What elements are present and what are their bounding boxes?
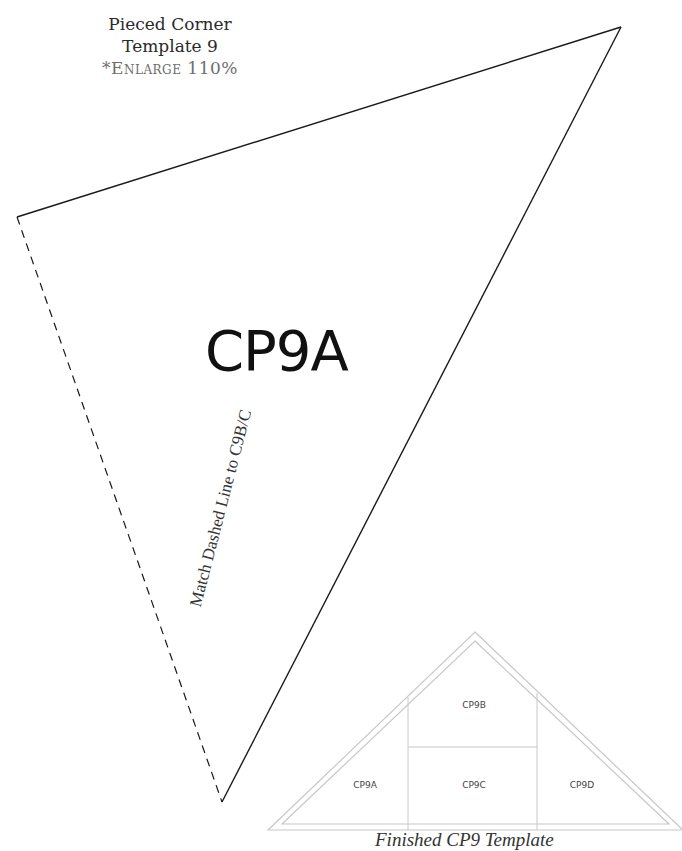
right-edge: [222, 27, 621, 802]
diagram-label-cp9a: CP9A: [353, 780, 377, 790]
top-edge: [17, 27, 621, 217]
diagram-inner-outline: [282, 641, 669, 824]
diagram-caption: Finished CP9 Template: [375, 829, 554, 851]
dashed-edge: [17, 217, 222, 802]
piece-label-cp9a: CP9A: [205, 318, 348, 383]
finished-diagram: [268, 632, 682, 830]
diagram-label-cp9d: CP9D: [570, 780, 594, 790]
diagram-label-cp9c: CP9C: [462, 780, 486, 790]
diagram-outer-outline: [268, 632, 682, 830]
diagram-label-cp9b: CP9B: [462, 700, 486, 710]
